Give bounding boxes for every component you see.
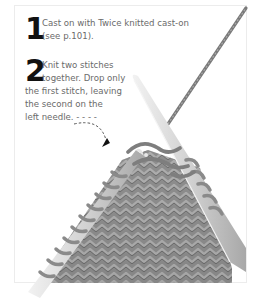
step-text-line: together. Drop only: [42, 72, 125, 86]
step-text-line: left needle. - - - -: [25, 111, 97, 125]
step-text-line: (see p.101).: [42, 30, 94, 44]
step-text-line: the second on the: [25, 98, 103, 112]
step-text-line: the first stitch, leaving: [25, 85, 122, 99]
step-text-line: Cast on with Twice knitted cast-on: [42, 17, 189, 31]
knitted-fabric: [40, 150, 232, 283]
step-text-line: Knit two stitches: [42, 59, 114, 73]
dashed-arrow: [74, 123, 110, 147]
